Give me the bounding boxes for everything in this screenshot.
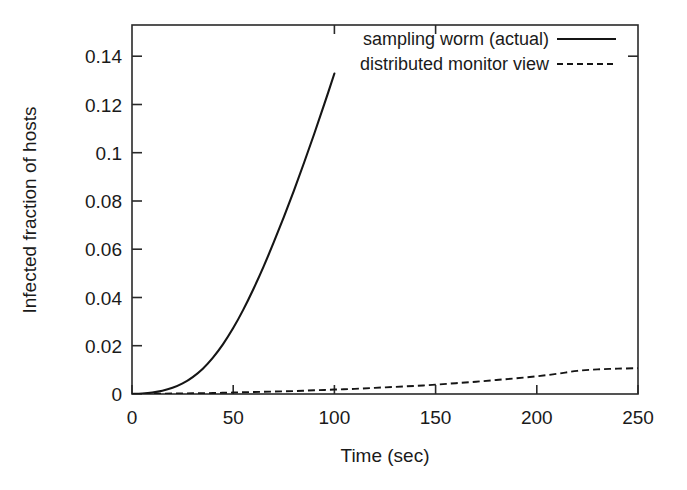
y-tick-label: 0.06 [85, 239, 122, 260]
y-tick-labels: 0 0.02 0.04 0.06 0.08 0.1 0.12 0.14 [85, 46, 122, 405]
y-tick-label: 0 [111, 384, 122, 405]
chart-figure: 0 0.02 0.04 0.06 0.08 0.1 0.12 0.14 0 50… [0, 0, 687, 490]
y-tick-label: 0.14 [85, 46, 122, 67]
x-tick-label: 0 [127, 407, 138, 428]
y-axis-title: Infected fraction of hosts [19, 106, 40, 313]
plot-frame [132, 25, 638, 394]
y-tick-label: 0.02 [85, 336, 122, 357]
y-tick-label: 0.04 [85, 288, 122, 309]
x-axis-ticks [132, 25, 638, 394]
series-line-distributed-monitor [132, 368, 638, 394]
x-tick-label: 250 [622, 407, 654, 428]
y-tick-label: 0.08 [85, 191, 122, 212]
x-tick-labels: 0 50 100 150 200 250 [127, 407, 654, 428]
legend-label-distributed-monitor: distributed monitor view [360, 54, 550, 74]
x-tick-label: 200 [521, 407, 553, 428]
y-tick-label: 0.1 [96, 143, 122, 164]
chart-canvas: 0 0.02 0.04 0.06 0.08 0.1 0.12 0.14 0 50… [0, 0, 687, 490]
x-tick-label: 50 [223, 407, 244, 428]
x-axis-title: Time (sec) [340, 445, 429, 466]
legend-label-sampling-worm: sampling worm (actual) [363, 29, 549, 49]
legend: sampling worm (actual) distributed monit… [360, 29, 616, 74]
x-tick-label: 150 [420, 407, 452, 428]
x-tick-label: 100 [319, 407, 351, 428]
y-axis-ticks [132, 56, 638, 394]
series-line-sampling-worm [132, 73, 334, 394]
y-tick-label: 0.12 [85, 95, 122, 116]
